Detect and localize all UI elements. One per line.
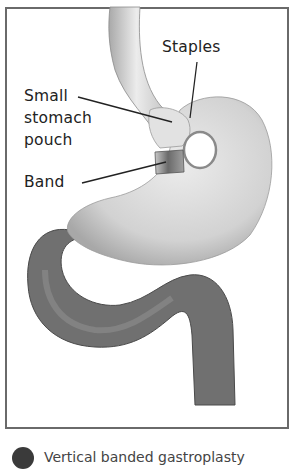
label-pouch-line1: Small	[24, 87, 68, 106]
label-pouch-line2: stomach	[24, 109, 92, 128]
gastric-band	[155, 150, 184, 174]
staple-window	[184, 132, 216, 168]
label-staples: Staples	[162, 38, 221, 57]
label-band: Band	[24, 173, 65, 192]
label-pouch-line3: pouch	[24, 131, 73, 150]
numbered-badge-icon	[12, 447, 34, 469]
figure-caption: Vertical banded gastroplasty	[44, 449, 245, 465]
